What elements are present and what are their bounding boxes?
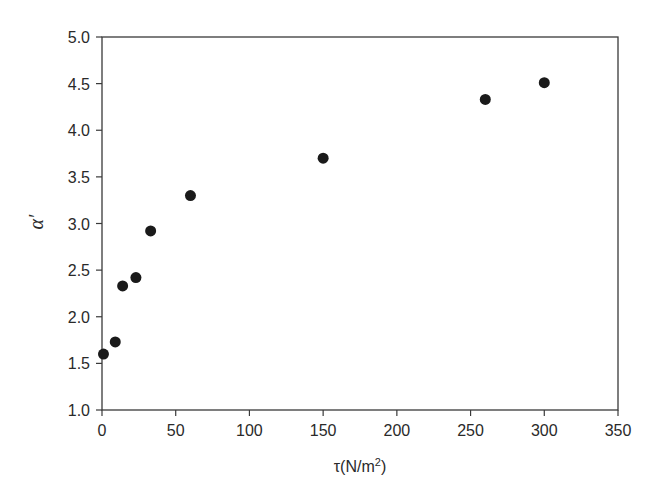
data-point [98, 349, 109, 360]
y-axis-ticks: 1.01.52.02.53.03.54.04.55.0 [68, 29, 102, 419]
x-tick-label: 150 [310, 422, 337, 439]
x-tick-label: 100 [236, 422, 263, 439]
x-axis-title: τ(N/m2) [334, 456, 386, 475]
data-point [185, 190, 196, 201]
x-tick-label: 350 [605, 422, 632, 439]
x-tick-label: 200 [384, 422, 411, 439]
y-tick-label: 1.5 [68, 355, 90, 372]
y-tick-label: 5.0 [68, 29, 90, 46]
scatter-chart: 050100150200250300350 1.01.52.02.53.03.5… [0, 0, 659, 502]
x-tick-label: 250 [457, 422, 484, 439]
data-point [145, 225, 156, 236]
data-point [318, 153, 329, 164]
data-point [480, 94, 491, 105]
y-tick-label: 3.0 [68, 216, 90, 233]
data-point [539, 77, 550, 88]
data-point [110, 336, 121, 347]
x-tick-label: 50 [167, 422, 185, 439]
y-tick-label: 4.0 [68, 122, 90, 139]
y-tick-label: 2.0 [68, 309, 90, 326]
data-point [130, 272, 141, 283]
plot-frame [102, 37, 618, 410]
data-points [98, 77, 550, 359]
y-tick-label: 3.5 [68, 169, 90, 186]
y-axis-title: α′ [25, 214, 47, 229]
y-tick-label: 4.5 [68, 76, 90, 93]
x-tick-label: 0 [98, 422, 107, 439]
x-axis-ticks: 050100150200250300350 [98, 410, 632, 439]
data-point [117, 280, 128, 291]
y-tick-label: 2.5 [68, 262, 90, 279]
y-tick-label: 1.0 [68, 402, 90, 419]
x-tick-label: 300 [531, 422, 558, 439]
